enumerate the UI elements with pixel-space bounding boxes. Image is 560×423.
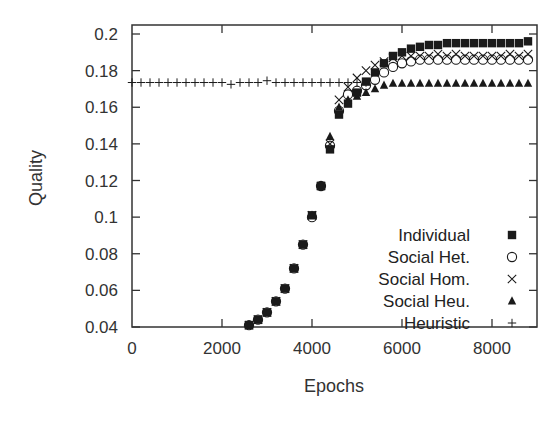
data-point: [506, 50, 514, 58]
plot-frame: [132, 25, 537, 327]
data-point: [451, 55, 460, 64]
data-point: [443, 79, 451, 87]
data-point: [425, 41, 433, 49]
data-point: [281, 284, 289, 292]
data-point: [272, 297, 280, 305]
data-point: [452, 39, 460, 47]
quality-vs-epochs-chart: 0.040.060.080.10.120.140.160.180.2 02000…: [0, 0, 560, 423]
legend-label: Heuristic: [404, 314, 471, 333]
data-point: [397, 59, 406, 68]
data-point: [479, 79, 487, 87]
legend-marker-filled-triangle-icon: [508, 296, 516, 304]
data-point: [254, 78, 262, 86]
data-point: [407, 79, 415, 87]
data-point: [326, 145, 334, 153]
data-point: [362, 77, 370, 85]
data-point: [479, 39, 487, 47]
legend-item: Social Het.: [388, 248, 517, 267]
data-point: [380, 81, 388, 89]
data-point: [227, 80, 235, 88]
legend-label: Social Hom.: [378, 270, 470, 289]
data-point: [524, 50, 532, 58]
y-tick-label: 0.18: [85, 62, 118, 81]
data-point: [272, 78, 280, 86]
data-point: [317, 78, 325, 86]
legend: IndividualSocial Het.Social Hom.Social H…: [378, 226, 516, 333]
data-point: [461, 39, 469, 47]
data-point: [200, 78, 208, 86]
data-point: [128, 78, 136, 86]
legend-marker-plus-icon: [508, 319, 516, 327]
legend-item: Social Heu.: [383, 292, 516, 311]
data-point: [236, 78, 244, 86]
y-axis-title: Quality: [26, 150, 46, 206]
data-point: [524, 79, 532, 87]
data-point: [173, 78, 181, 86]
y-tick-label: 0.06: [85, 281, 118, 300]
data-point: [434, 50, 442, 58]
y-tick-label: 0.08: [85, 245, 118, 264]
data-point: [416, 79, 424, 87]
data-point: [335, 110, 343, 118]
data-point: [371, 68, 379, 76]
legend-item: Heuristic: [404, 314, 516, 333]
data-point: [443, 39, 451, 47]
data-point: [461, 79, 469, 87]
data-point: [245, 78, 253, 86]
data-point: [416, 43, 424, 51]
legend-label: Social Heu.: [383, 292, 470, 311]
data-point: [506, 39, 514, 47]
x-tick-label: 4000: [293, 339, 331, 358]
data-point: [380, 59, 388, 67]
data-point: [389, 79, 397, 87]
data-point: [488, 79, 496, 87]
data-point: [317, 182, 325, 190]
data-point: [290, 78, 298, 86]
data-point: [505, 55, 514, 64]
data-point: [371, 61, 379, 69]
data-series: [128, 37, 533, 330]
data-point: [407, 44, 415, 52]
data-point: [434, 79, 442, 87]
x-axis-title: Epochs: [304, 376, 364, 396]
data-point: [308, 211, 316, 219]
legend-marker-filled-square-icon: [508, 231, 516, 239]
y-tick-label: 0.12: [85, 172, 118, 191]
x-tick-label: 8000: [473, 339, 511, 358]
data-point: [506, 79, 514, 87]
data-point: [326, 78, 334, 86]
data-point: [335, 78, 343, 86]
data-point: [299, 78, 307, 86]
plot-border: [132, 25, 537, 327]
data-point: [425, 79, 433, 87]
data-point: [434, 41, 442, 49]
data-point: [452, 50, 460, 58]
data-point: [308, 78, 316, 86]
data-point: [137, 78, 145, 86]
y-tick-label: 0.16: [85, 98, 118, 117]
data-point: [263, 308, 271, 316]
data-point: [388, 62, 397, 71]
data-point: [281, 78, 289, 86]
x-tick-label: 6000: [383, 339, 421, 358]
data-point: [218, 78, 226, 86]
data-point: [299, 240, 307, 248]
x-tick-label: 2000: [203, 339, 241, 358]
legend-label: Individual: [398, 226, 470, 245]
data-point: [182, 78, 190, 86]
data-point: [523, 55, 532, 64]
legend-item: Social Hom.: [378, 270, 516, 289]
y-tick-label: 0.1: [94, 208, 118, 227]
data-point: [379, 68, 388, 77]
data-point: [344, 99, 352, 107]
data-point: [407, 52, 415, 60]
data-point: [353, 78, 361, 86]
data-point: [398, 48, 406, 56]
data-point: [488, 39, 496, 47]
y-tick-label: 0.14: [85, 135, 118, 154]
series-heuristic: [128, 76, 370, 88]
data-point: [515, 39, 523, 47]
legend-marker-open-circle-icon: [507, 252, 516, 261]
legend-marker-cross-x-icon: [508, 275, 516, 283]
data-point: [371, 84, 379, 92]
